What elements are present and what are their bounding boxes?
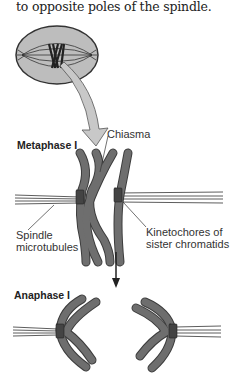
anaphase-chromosome-left — [56, 299, 96, 367]
metaphase-chromosomes — [76, 153, 128, 262]
kinetochore-anaphase-right — [169, 324, 177, 338]
label-kinetochores-line2: sister chromatids — [146, 238, 229, 251]
cell-overview — [16, 26, 98, 84]
label-chiasma: Chiasma — [107, 128, 150, 141]
meiosis-diagram — [0, 0, 231, 381]
anaphase-spindle-microtubules — [13, 326, 221, 337]
kinetochore-right — [114, 188, 122, 202]
stage-label-metaphase: Metaphase I — [17, 139, 77, 151]
kinetochore-left — [76, 190, 84, 204]
label-spindle-line2: microtubules — [16, 241, 78, 254]
anaphase-chromosome-right — [136, 302, 177, 368]
kinetochore-anaphase-left — [56, 324, 64, 338]
stage-label-anaphase: Anaphase I — [14, 289, 70, 301]
